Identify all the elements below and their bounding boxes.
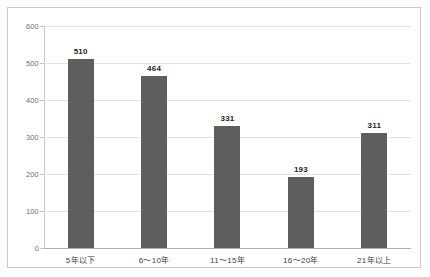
x-category-label: 16～20年 (283, 254, 319, 265)
y-axis-tickmarks (8, 26, 48, 248)
gridline-0 (44, 248, 411, 249)
bar[interactable] (214, 126, 240, 248)
bar-group[interactable]: 311 (338, 26, 411, 248)
bar[interactable] (141, 76, 167, 248)
bar-value-label: 464 (147, 64, 161, 73)
bar-value-label: 311 (368, 121, 382, 130)
bar-value-label: 510 (74, 47, 88, 56)
x-category-label: 5年以下 (66, 254, 96, 265)
bar-value-label: 331 (221, 114, 235, 123)
bar-value-label: 193 (294, 165, 308, 174)
bar-group[interactable]: 331 (191, 26, 264, 248)
bar[interactable] (361, 133, 387, 248)
plot-area: 510464331193311 (44, 26, 411, 248)
x-category-label: 6～10年 (139, 254, 170, 265)
bar-group[interactable]: 464 (117, 26, 190, 248)
x-category-label: 21年以上 (357, 254, 391, 265)
bar-group[interactable]: 193 (264, 26, 337, 248)
bar[interactable] (288, 177, 314, 248)
bar[interactable] (68, 59, 94, 248)
bar-group[interactable]: 510 (44, 26, 117, 248)
x-category-label: 11～15年 (210, 254, 245, 265)
bar-chart-figure: 6005004003002001000 510464331193311 5年以下… (0, 0, 430, 277)
chart-frame: 6005004003002001000 510464331193311 5年以下… (7, 7, 421, 268)
